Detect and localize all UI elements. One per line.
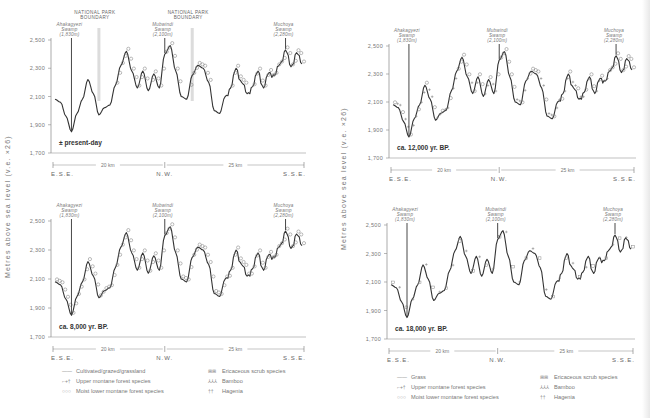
lower-montane-symbol <box>289 233 292 236</box>
lower-montane-symbol <box>510 73 513 76</box>
swamp-label: (1,830m) <box>397 38 417 43</box>
ericaceous-symbol <box>632 245 635 248</box>
lower-montane-symbol <box>179 80 182 83</box>
lower-montane-symbol <box>173 236 176 239</box>
lower-montane-symbol <box>135 258 138 261</box>
legend-item: ⊞⊞Ericaceous scrub species <box>540 372 650 382</box>
period-label: ± present-day <box>59 139 102 147</box>
lower-montane-symbol <box>88 258 91 261</box>
lower-montane-symbol <box>143 67 146 70</box>
legend-item: ○○○Moist lower montane forest species <box>397 392 557 402</box>
upper-montane-icon: ⌐+† <box>397 382 411 392</box>
lower-montane-symbol <box>300 233 303 236</box>
lower-montane-symbol <box>132 249 135 252</box>
lower-montane-symbol <box>91 265 94 268</box>
park-boundary-bar <box>191 28 194 101</box>
upper-montane-symbol <box>471 81 474 84</box>
legend-item: ○○○Moist lower montane forest species <box>62 386 222 396</box>
lower-montane-symbol <box>127 47 130 50</box>
lower-montane-symbol <box>157 259 160 262</box>
lower-montane-symbol <box>508 60 511 63</box>
lower-montane-symbol <box>239 257 242 260</box>
upper-montane-symbol <box>399 104 402 107</box>
lower-montane-symbol <box>569 70 572 73</box>
lower-montane-circle-icon: ○○○ <box>397 392 411 402</box>
period-label: ca. 8,000 yr. BP. <box>59 323 108 331</box>
upper-montane-symbol <box>548 112 551 115</box>
lower-montane-symbol <box>209 260 212 263</box>
y-tick-label: 2,500 <box>366 222 381 228</box>
lower-montane-symbol <box>590 73 593 76</box>
swamp-label: (2,280m) <box>274 32 294 37</box>
chart-panel-18000-bp: 2,5002,3002,1001,9001,700AhakagyeziSwamp… <box>325 185 650 365</box>
lower-montane-symbol <box>258 67 261 70</box>
lower-montane-symbol <box>135 75 138 78</box>
legend-item: ⅄⅄⅄Bamboo <box>540 382 650 392</box>
swamp-label: (1,830m) <box>59 213 79 218</box>
lower-montane-symbol <box>154 70 157 73</box>
page-edge-shadow <box>642 0 650 418</box>
lower-montane-symbol <box>176 249 179 252</box>
ericaceous-symbol <box>592 265 595 268</box>
ericaceous-scrub-icon: ⊞⊞ <box>208 366 222 376</box>
lower-montane-symbol <box>481 83 484 86</box>
elevation-profile-line <box>55 227 302 315</box>
lower-montane-symbol <box>468 73 471 76</box>
lower-montane-symbol <box>630 57 633 60</box>
lower-montane-symbol <box>173 54 176 57</box>
lower-montane-symbol <box>237 64 240 67</box>
ericaceous-symbol <box>392 281 395 284</box>
y-tick-label: 2,300 <box>366 251 381 257</box>
lower-montane-symbol <box>206 253 209 256</box>
lower-montane-symbol <box>489 76 492 79</box>
y-tick-label: 1,700 <box>366 336 381 342</box>
elevation-profile-line <box>55 46 302 132</box>
lower-montane-symbol <box>130 57 133 60</box>
legend-item: ⌐+†Upper montane forest species <box>62 376 222 386</box>
lower-montane-symbol <box>297 49 300 52</box>
lower-montane-symbol <box>393 101 396 104</box>
swamp-label: (2,100m) <box>153 32 173 37</box>
direction-label-middle: N.W. <box>491 176 508 182</box>
lower-montane-symbol <box>632 66 635 69</box>
upper-montane-symbol <box>516 98 519 101</box>
lower-montane-symbol <box>269 250 272 253</box>
lower-montane-symbol <box>179 262 182 265</box>
lower-montane-symbol <box>286 46 289 49</box>
lower-montane-symbol <box>302 242 305 245</box>
distance-label-25km: 25 km <box>560 348 574 354</box>
lower-montane-symbol <box>130 239 133 242</box>
lower-montane-symbol <box>478 73 481 76</box>
bamboo-icon: ⅄⅄⅄ <box>208 376 222 386</box>
park-boundary-bar <box>97 28 100 101</box>
direction-label-start: E.S.E. <box>51 355 74 361</box>
upper-montane-icon: ⌐+† <box>62 376 76 386</box>
y-tick-label: 2,500 <box>30 37 45 43</box>
upper-montane-symbol <box>425 263 428 266</box>
elevation-profile-chart: 2,5002,3002,1001,9001,700AhakagyeziSwamp… <box>325 0 650 185</box>
lower-montane-symbol <box>433 106 436 109</box>
y-tick-label: 2,300 <box>30 247 45 253</box>
lower-montane-symbol <box>505 48 508 51</box>
lower-montane-symbol <box>425 81 428 84</box>
lower-montane-symbol <box>302 60 305 63</box>
direction-label-middle: N.W. <box>156 355 173 361</box>
lower-montane-symbol <box>245 263 248 266</box>
lower-montane-symbol <box>286 227 289 230</box>
ericaceous-scrub-icon: ⊞⊞ <box>540 372 554 382</box>
y-tick-label: 2,300 <box>30 65 45 71</box>
swamp-label: (2,280m) <box>604 38 624 43</box>
lower-montane-symbol <box>289 51 292 54</box>
elevation-profile-chart: 2,5002,3002,1001,9001,700NATIONAL PARKBO… <box>0 0 325 180</box>
lower-montane-symbol <box>462 53 465 56</box>
chart-panel-12000-bp: 2,5002,3002,1001,9001,700AhakagyeziSwamp… <box>325 0 650 185</box>
y-tick-label: 1,700 <box>30 334 45 340</box>
y-tick-label: 2,300 <box>368 71 383 77</box>
lower-montane-symbol <box>206 71 209 74</box>
lower-montane-symbol <box>297 230 300 233</box>
lower-montane-symbol <box>132 67 135 70</box>
lower-montane-symbol <box>465 63 468 66</box>
chart-panel-8000-bp: 2,5002,3002,1001,9001,700AhakagyeziSwamp… <box>0 180 325 365</box>
legend-item: ——Grass <box>397 372 557 382</box>
upper-montane-symbol <box>428 88 431 91</box>
